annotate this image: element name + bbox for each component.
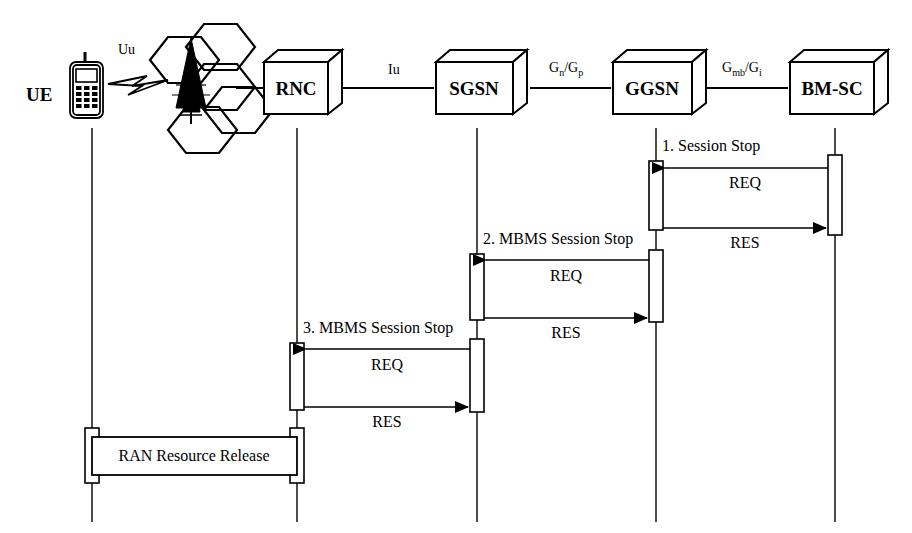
message-2-response-label: RES [551,324,580,341]
svg-text:Gn/Gp: Gn/Gp [549,60,583,78]
activation-bar-bmsc-1 [828,155,842,235]
svg-text:Gmb/Gi: Gmb/Gi [722,60,762,78]
node-label-ggsn: GGSN [625,78,679,99]
message-3-title: 3. MBMS Session Stop [303,319,453,337]
node-label-bmsc: BM-SC [801,78,862,99]
node-box-bmsc[interactable]: BM-SC [790,50,888,114]
node-label-rnc: RNC [275,78,316,99]
activation-bar-sgsn-2 [470,254,484,320]
message-3-request-label: REQ [371,356,403,373]
message-group-1[interactable]: 1. Session Stop REQ RES [649,137,842,251]
ran-resource-release-label: RAN Resource Release [118,447,269,464]
diagram-svg: UE Uu [0,0,912,533]
activation-bar-ggsn-1 [649,161,663,230]
mobile-phone-icon [70,52,103,118]
message-group-3[interactable]: 3. MBMS Session Stop REQ RES [290,319,484,430]
message-1-response-label: RES [730,234,759,251]
iface-gi-base: G [749,60,759,75]
iface-gmb-sub: mb [732,67,745,78]
activation-bar-sgsn-3 [470,339,484,412]
node-box-ggsn[interactable]: GGSN [613,50,706,114]
sequence-diagram-canvas: UE Uu [0,0,912,533]
interface-label-iu: Iu [388,62,400,77]
node-box-sgsn[interactable]: SGSN [436,50,527,114]
message-2-title: 2. MBMS Session Stop [483,230,633,248]
node-box-rnc[interactable]: RNC [264,50,342,114]
iface-gn-base: G [549,60,559,75]
activation-bar-rnc-3 [290,343,304,410]
iface-gp-sub: p [578,67,583,78]
message-2-request-label: REQ [550,267,582,284]
procedure-box-ran-resource-release[interactable]: RAN Resource Release [85,428,304,483]
ue-label: UE [26,84,52,105]
iface-gp-base: G [568,60,578,75]
iface-gi-sub: i [759,67,762,78]
message-1-request-label: REQ [729,174,761,191]
message-group-2[interactable]: 2. MBMS Session Stop REQ RES [470,230,663,341]
interface-label-gmb-gi: Gmb/Gi [722,60,762,78]
radio-lightning-icon [108,76,168,95]
message-1-title: 1. Session Stop [662,137,760,155]
node-label-sgsn: SGSN [449,78,499,99]
activation-bar-ggsn-2 [649,250,663,322]
interface-label-gn-gp: Gn/Gp [549,60,583,78]
iface-gmb-base: G [722,60,732,75]
message-3-response-label: RES [372,413,401,430]
interface-label-uu: Uu [118,42,135,57]
